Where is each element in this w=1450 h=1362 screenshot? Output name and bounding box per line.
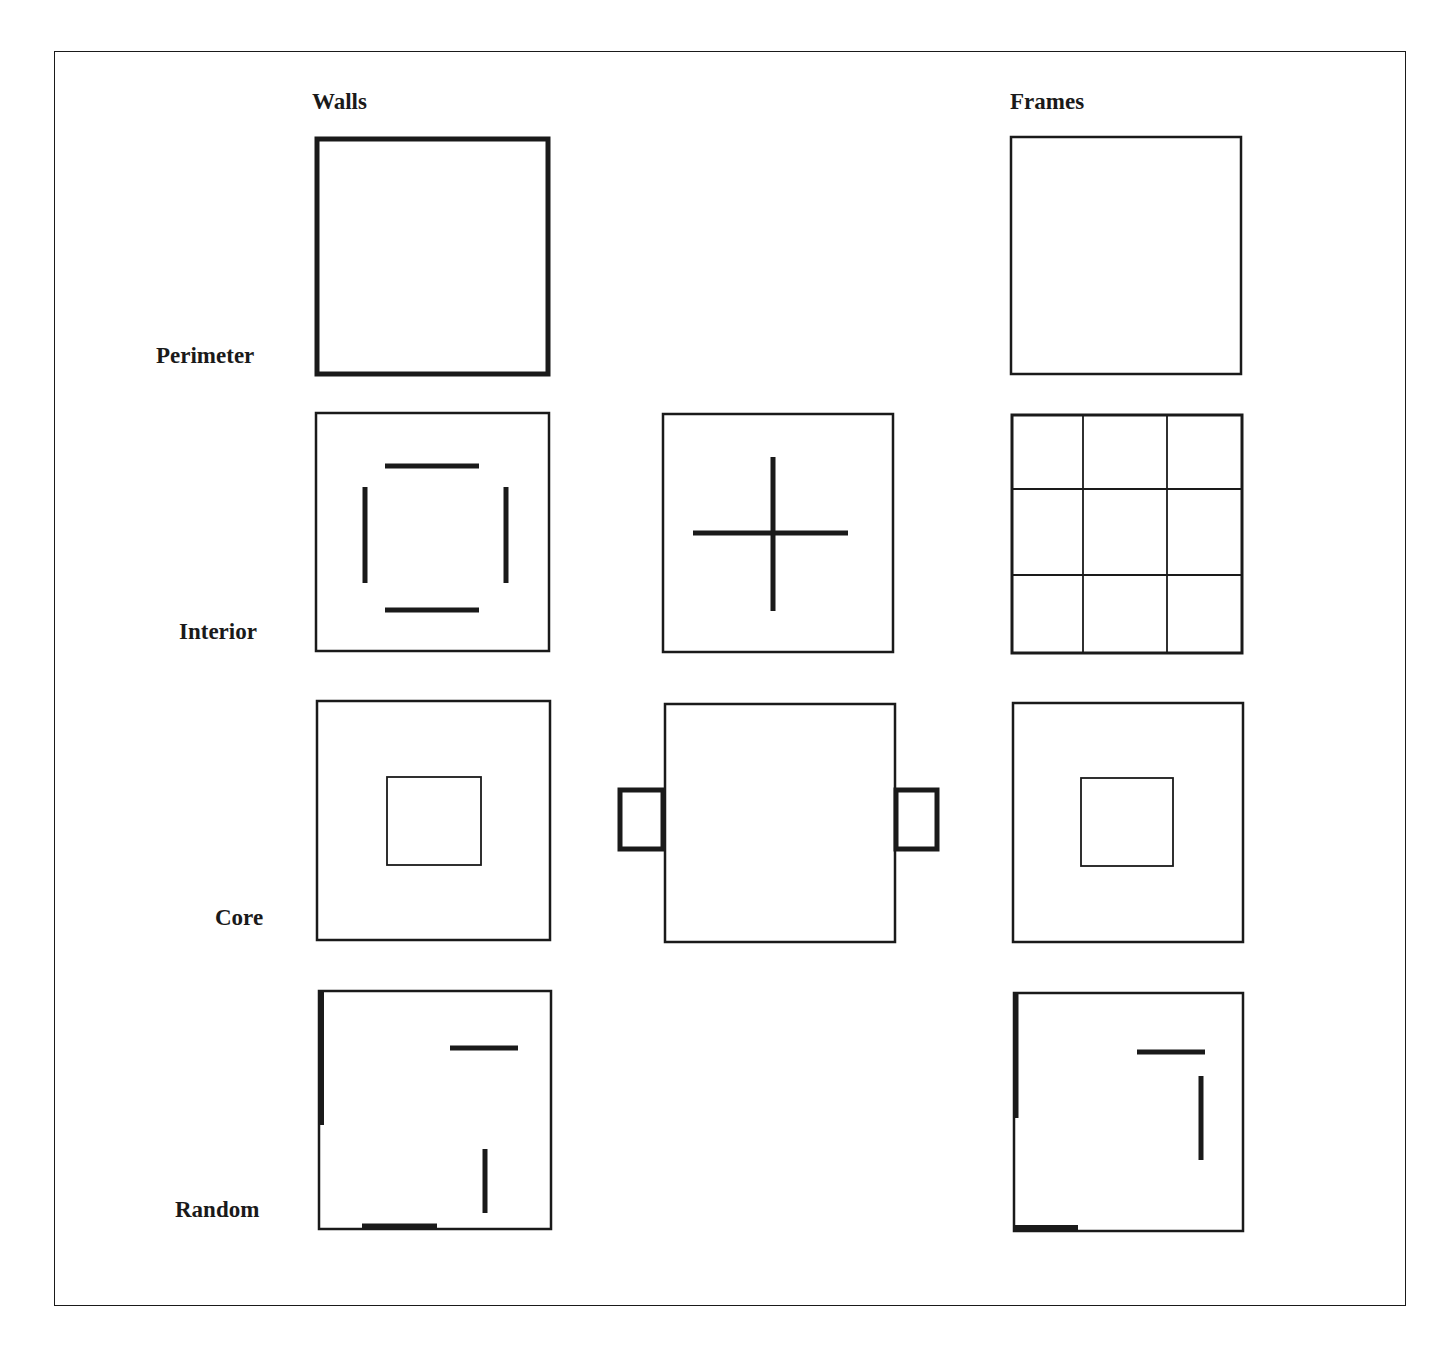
panel-interior-cross bbox=[663, 414, 893, 652]
panel-perimeter-frames bbox=[1011, 137, 1241, 374]
panel-random-walls bbox=[319, 991, 551, 1229]
panel-interior-frames-grid bbox=[1012, 415, 1242, 653]
structural-systems-diagram bbox=[0, 0, 1450, 1362]
panel-core-frames bbox=[1013, 703, 1243, 942]
panel-core-external bbox=[620, 704, 937, 942]
panel-random-frames bbox=[1014, 993, 1243, 1231]
panel-interior-walls bbox=[316, 413, 549, 651]
panel-core-walls bbox=[317, 701, 550, 940]
panel-perimeter-walls bbox=[317, 139, 548, 374]
